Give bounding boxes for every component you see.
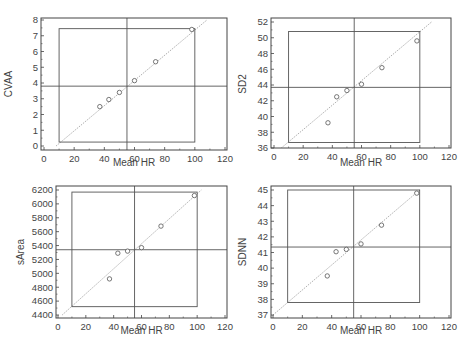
y-tick-label: 5800 xyxy=(32,212,53,223)
data-point xyxy=(325,274,329,278)
data-point xyxy=(326,121,330,125)
data-point xyxy=(116,251,120,255)
y-tick-label: 5200 xyxy=(32,254,53,265)
x-tick-label: 20 xyxy=(298,151,309,162)
data-point xyxy=(334,250,338,254)
regression-line xyxy=(273,190,420,315)
y-tick-label: 0 xyxy=(33,140,38,151)
regression-line xyxy=(281,22,431,148)
y-tick-label: 44 xyxy=(257,79,268,90)
x-tick-label: 100 xyxy=(187,153,203,164)
x-axis-title: Mean HR xyxy=(340,157,382,168)
y-tick-label: 6 xyxy=(33,46,38,57)
y-tick-label: 6000 xyxy=(32,198,53,209)
data-point xyxy=(98,104,102,108)
y-tick-label: 38 xyxy=(257,294,268,305)
y-tick-label: 41 xyxy=(257,247,268,258)
y-tick-label: 43 xyxy=(257,216,268,227)
regression-line xyxy=(56,20,207,146)
x-tick-label: 40 xyxy=(327,151,338,162)
data-point xyxy=(379,223,383,227)
y-tick-label: 4400 xyxy=(32,309,53,320)
y-tick-label: 5000 xyxy=(32,268,53,279)
data-point xyxy=(159,224,163,228)
y-tick-label: 40 xyxy=(257,111,268,122)
x-tick-label: 120 xyxy=(441,151,457,162)
y-tick-label: 4800 xyxy=(32,282,53,293)
y-tick-label: 48 xyxy=(257,48,268,59)
y-tick-label: 42 xyxy=(257,231,268,242)
data-point xyxy=(415,39,419,43)
plot-frame xyxy=(271,186,451,318)
y-tick-label: 4600 xyxy=(32,295,53,306)
y-tick-label: 40 xyxy=(257,262,268,273)
y-tick-label: 8 xyxy=(33,14,38,25)
x-tick-label: 80 xyxy=(164,321,175,332)
x-tick-label: 20 xyxy=(81,321,92,332)
x-tick-label: 0 xyxy=(271,151,276,162)
x-tick-label: 40 xyxy=(99,153,110,164)
y-tick-label: 50 xyxy=(257,32,268,43)
x-tick-label: 20 xyxy=(69,153,80,164)
y-axis-title: SD2 xyxy=(237,74,248,94)
data-point xyxy=(190,27,194,31)
chart-panel-sarea: 0204060801001204400460048005000520054005… xyxy=(15,184,233,336)
y-tick-label: 38 xyxy=(257,127,268,138)
chart-panel-sd2: 020406080100120363840424446485052Mean HR… xyxy=(237,16,457,168)
x-tick-label: 100 xyxy=(412,321,428,332)
x-tick-label: 0 xyxy=(41,153,46,164)
x-tick-label: 80 xyxy=(385,151,396,162)
x-tick-label: 20 xyxy=(297,321,308,332)
scatter-plot-grid: 020406080100120012345678Mean HRCVAA02040… xyxy=(0,0,469,357)
data-point xyxy=(139,245,143,249)
x-tick-label: 80 xyxy=(385,321,396,332)
y-tick-label: 44 xyxy=(257,200,268,211)
data-point xyxy=(153,60,157,64)
y-tick-label: 45 xyxy=(257,184,268,195)
y-tick-label: 3 xyxy=(33,93,38,104)
x-axis-title: Mean HR xyxy=(120,325,162,336)
y-tick-label: 2 xyxy=(33,109,38,120)
chart-panel-cvaa: 020406080100120012345678Mean HRCVAA xyxy=(3,14,233,168)
x-tick-label: 100 xyxy=(412,151,428,162)
x-tick-label: 80 xyxy=(159,153,170,164)
y-tick-label: 6200 xyxy=(32,184,53,195)
y-axis-title: CVAA xyxy=(3,70,14,97)
y-tick-label: 42 xyxy=(257,95,268,106)
data-point xyxy=(117,90,121,94)
data-point xyxy=(125,249,129,253)
x-tick-label: 0 xyxy=(55,321,60,332)
x-tick-label: 40 xyxy=(326,321,337,332)
y-tick-label: 1 xyxy=(33,125,38,136)
y-tick-label: 4 xyxy=(33,77,38,88)
regression-line xyxy=(62,190,201,315)
data-point xyxy=(335,95,339,99)
y-tick-label: 37 xyxy=(257,309,268,320)
data-point xyxy=(344,247,348,251)
data-point xyxy=(345,88,349,92)
x-tick-label: 120 xyxy=(217,321,233,332)
x-tick-label: 120 xyxy=(441,321,457,332)
data-point xyxy=(359,242,363,246)
data-point xyxy=(359,82,363,86)
y-tick-label: 5 xyxy=(33,62,38,73)
x-tick-label: 40 xyxy=(108,321,119,332)
y-tick-label: 5600 xyxy=(32,226,53,237)
data-point xyxy=(107,97,111,101)
plot-frame xyxy=(41,18,227,150)
x-tick-label: 0 xyxy=(270,321,275,332)
y-tick-label: 7 xyxy=(33,30,38,41)
data-point xyxy=(192,193,196,197)
data-point xyxy=(380,65,384,69)
x-axis-title: Mean HR xyxy=(340,325,382,336)
x-axis-title: Mean HR xyxy=(113,157,155,168)
x-tick-label: 120 xyxy=(217,153,233,164)
y-tick-label: 5400 xyxy=(32,240,53,251)
y-tick-label: 39 xyxy=(257,278,268,289)
y-tick-label: 46 xyxy=(257,64,268,75)
y-axis-title: SDNN xyxy=(237,238,248,266)
data-point xyxy=(415,191,419,195)
plot-frame xyxy=(56,186,227,318)
y-axis-title: sArea xyxy=(15,239,26,266)
data-point xyxy=(107,277,111,281)
